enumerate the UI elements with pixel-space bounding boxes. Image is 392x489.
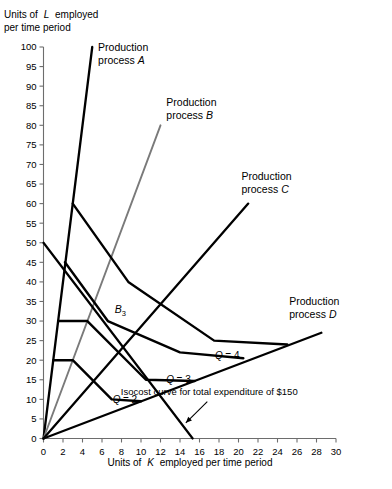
- label-a-line1: Production: [98, 41, 148, 53]
- isocost-note: Isocost curve for total expenditure of $…: [121, 386, 298, 397]
- series-production-process-a: [44, 47, 93, 439]
- y-tick-label-40: 40: [26, 276, 37, 287]
- isoquant-isocost-figure: Units of L employed per time period 0510…: [0, 0, 392, 489]
- label-d-line2: processD: [289, 308, 337, 320]
- x-tick-label-2: 2: [60, 446, 65, 457]
- x-tick-label-12: 12: [155, 446, 166, 457]
- x-tick-label-24: 24: [272, 446, 283, 457]
- x-axis-ticks: 024681012141618202224262830: [41, 439, 341, 457]
- y-tick-label-5: 5: [31, 413, 36, 424]
- y-tick-label-30: 30: [26, 315, 37, 326]
- x-tick-label-6: 6: [99, 446, 104, 457]
- label-c-line2: processC: [241, 183, 289, 195]
- production-isoquant-chart: Units of L employed per time period 0510…: [0, 0, 392, 489]
- y-tick-label-15: 15: [26, 374, 37, 385]
- point-B3: B3: [115, 303, 126, 318]
- y-tick-label-60: 60: [26, 198, 37, 209]
- x-tick-label-16: 16: [194, 446, 205, 457]
- y-tick-label-70: 70: [26, 159, 37, 170]
- y-axis-ticks: 0510152025303540455055606570758085909510…: [21, 41, 44, 444]
- label-c-line1: Production: [241, 170, 291, 182]
- y-tick-label-10: 10: [26, 394, 37, 405]
- y-tick-label-45: 45: [26, 257, 37, 268]
- x-tick-label-4: 4: [80, 446, 85, 457]
- y-tick-label-50: 50: [26, 237, 37, 248]
- label-b-line1: Production: [166, 96, 216, 108]
- x-tick-label-14: 14: [175, 446, 186, 457]
- x-axis-title: Units of K employed per time period: [108, 457, 273, 468]
- isoquant-label-4: Q= 4: [215, 350, 240, 361]
- y-tick-label-35: 35: [26, 296, 37, 307]
- y-tick-label-95: 95: [26, 61, 37, 72]
- x-tick-label-8: 8: [119, 446, 124, 457]
- y-tick-label-25: 25: [26, 335, 37, 346]
- y-tick-label-85: 85: [26, 100, 37, 111]
- isoquant-label-3: Q= 3: [166, 374, 191, 385]
- y-tick-label-75: 75: [26, 139, 37, 150]
- x-tick-label-22: 22: [253, 446, 264, 457]
- label-b-line2: processB: [166, 109, 213, 121]
- label-a-line2: processA: [98, 54, 145, 66]
- y-tick-label-20: 20: [26, 355, 37, 366]
- y-tick-label-80: 80: [26, 120, 37, 131]
- y-tick-label-65: 65: [26, 178, 37, 189]
- y-axis-title-line1: Units of L employed: [4, 9, 98, 20]
- y-axis-title-line2: per time period: [4, 22, 71, 33]
- y-tick-label-0: 0: [31, 433, 36, 444]
- x-tick-label-20: 20: [233, 446, 244, 457]
- y-tick-label-100: 100: [21, 41, 37, 52]
- y-tick-label-55: 55: [26, 218, 37, 229]
- x-tick-label-30: 30: [331, 446, 342, 457]
- x-tick-label-0: 0: [41, 446, 46, 457]
- x-tick-label-10: 10: [136, 446, 147, 457]
- chart-labels-layer: ProductionprocessAProductionprocessBProd…: [98, 41, 339, 423]
- x-tick-label-28: 28: [311, 446, 322, 457]
- x-tick-label-26: 26: [292, 446, 303, 457]
- label-d-line1: Production: [289, 295, 339, 307]
- y-tick-label-90: 90: [26, 81, 37, 92]
- x-tick-label-18: 18: [214, 446, 225, 457]
